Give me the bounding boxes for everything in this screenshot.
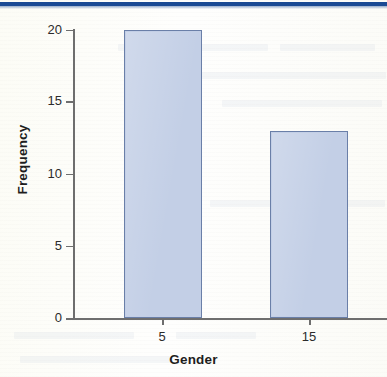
chart-figure: 0 5 10 15 20 5 15 Gender Frequency: [0, 0, 387, 377]
x-tick-5: [162, 318, 164, 325]
y-tick-label-5: 5: [22, 238, 62, 253]
y-tick-5: [66, 246, 73, 248]
plot-area: 0 5 10 15 20 5 15 Gender Frequency: [0, 0, 387, 377]
y-tick-15: [66, 101, 73, 103]
x-axis-line: [73, 318, 387, 320]
x-tick-label-5: 5: [132, 329, 192, 344]
bar-sheen: [272, 133, 346, 316]
y-axis-line: [73, 29, 75, 319]
y-axis-title: Frequency: [15, 80, 30, 240]
x-axis-title: Gender: [0, 352, 387, 367]
y-tick-10: [66, 174, 73, 176]
x-tick-15: [309, 318, 311, 325]
y-tick-label-20: 20: [22, 22, 62, 37]
bar-category-15[interactable]: [270, 131, 348, 318]
y-tick-20: [66, 30, 73, 32]
x-tick-label-15: 15: [279, 329, 339, 344]
bar-sheen: [126, 32, 200, 316]
y-tick-label-0: 0: [22, 310, 62, 325]
bar-category-5[interactable]: [124, 30, 202, 318]
y-tick-0: [66, 318, 73, 320]
